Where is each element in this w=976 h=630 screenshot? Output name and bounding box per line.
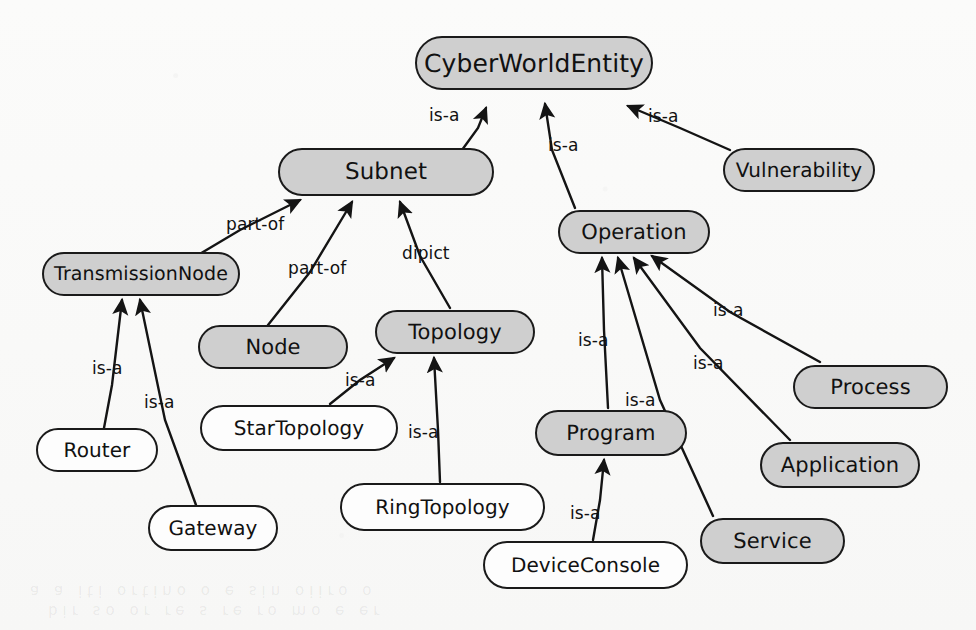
node-transmissionnode[interactable]: TransmissionNode bbox=[42, 252, 240, 296]
edge-label-vulnerability-to-cyberworldentity: is-a bbox=[648, 106, 679, 126]
node-vulnerability[interactable]: Vulnerability bbox=[723, 148, 875, 192]
node-label: CyberWorldEntity bbox=[424, 49, 644, 78]
node-ringtopology[interactable]: RingTopology bbox=[340, 483, 545, 531]
edge-label-operation-to-cyberworldentity: is-a bbox=[548, 135, 579, 155]
node-label: Program bbox=[566, 421, 655, 445]
edge-subnet-to-cyberworldentity bbox=[462, 108, 486, 150]
edge-deviceconsole-to-program bbox=[593, 460, 604, 540]
node-label: Subnet bbox=[345, 159, 427, 185]
node-label: TransmissionNode bbox=[54, 263, 228, 285]
node-service[interactable]: Service bbox=[700, 518, 845, 564]
node-router[interactable]: Router bbox=[36, 428, 158, 472]
edge-label-subnet-to-cyberworldentity: is-a bbox=[429, 105, 460, 125]
edge-label-router-to-transmissionnode: is-a bbox=[92, 358, 123, 378]
node-label: Router bbox=[64, 438, 131, 462]
edge-label-startopology-to-topology: is-a bbox=[345, 370, 376, 390]
edge-label-program-to-operation: is-a bbox=[578, 330, 609, 350]
node-deviceconsole[interactable]: DeviceConsole bbox=[483, 541, 688, 589]
node-label: DeviceConsole bbox=[511, 553, 660, 577]
node-subnet[interactable]: Subnet bbox=[278, 148, 494, 196]
edge-label-application-to-operation: is-a bbox=[693, 353, 724, 373]
edge-vulnerability-to-cyberworldentity bbox=[628, 106, 730, 150]
edge-ringtopology-to-topology bbox=[434, 358, 440, 482]
node-topology[interactable]: Topology bbox=[375, 310, 535, 354]
edge-service-to-operation bbox=[618, 258, 713, 516]
edge-label-topology-to-subnet: dipict bbox=[402, 243, 450, 263]
node-gateway[interactable]: Gateway bbox=[148, 505, 278, 551]
node-label: Gateway bbox=[168, 516, 257, 540]
node-label: StarTopology bbox=[234, 416, 365, 440]
node-program[interactable]: Program bbox=[535, 410, 687, 456]
edge-operation-to-cyberworldentity bbox=[545, 104, 575, 208]
node-operation[interactable]: Operation bbox=[558, 210, 710, 254]
node-label: RingTopology bbox=[375, 495, 509, 519]
edge-label-ringtopology-to-topology: is-a bbox=[408, 422, 439, 442]
node-label: Operation bbox=[581, 220, 686, 244]
node-application[interactable]: Application bbox=[760, 442, 920, 488]
node-label: Application bbox=[781, 453, 899, 477]
edge-label-node-to-subnet: part-of bbox=[288, 258, 346, 278]
node-label: Node bbox=[245, 335, 300, 359]
node-node[interactable]: Node bbox=[198, 325, 348, 369]
node-label: Vulnerability bbox=[736, 158, 862, 182]
edge-label-process-to-operation: is-a bbox=[713, 300, 744, 320]
node-cyberworldentity[interactable]: CyberWorldEntity bbox=[415, 36, 653, 90]
node-label: Process bbox=[830, 375, 910, 399]
edge-label-transmissionnode-to-subnet: part-of bbox=[226, 214, 284, 234]
diagram-canvas: CyberWorldEntitySubnetVulnerabilityOpera… bbox=[0, 0, 976, 630]
edge-label-gateway-to-transmissionnode: is-a bbox=[144, 392, 175, 412]
edge-label-deviceconsole-to-program: is-a bbox=[570, 503, 601, 523]
edge-label-service-to-operation: is-a bbox=[625, 390, 656, 410]
node-label: Service bbox=[733, 529, 811, 553]
node-process[interactable]: Process bbox=[793, 365, 948, 409]
node-label: Topology bbox=[408, 320, 502, 344]
node-startopology[interactable]: StarTopology bbox=[200, 405, 398, 451]
